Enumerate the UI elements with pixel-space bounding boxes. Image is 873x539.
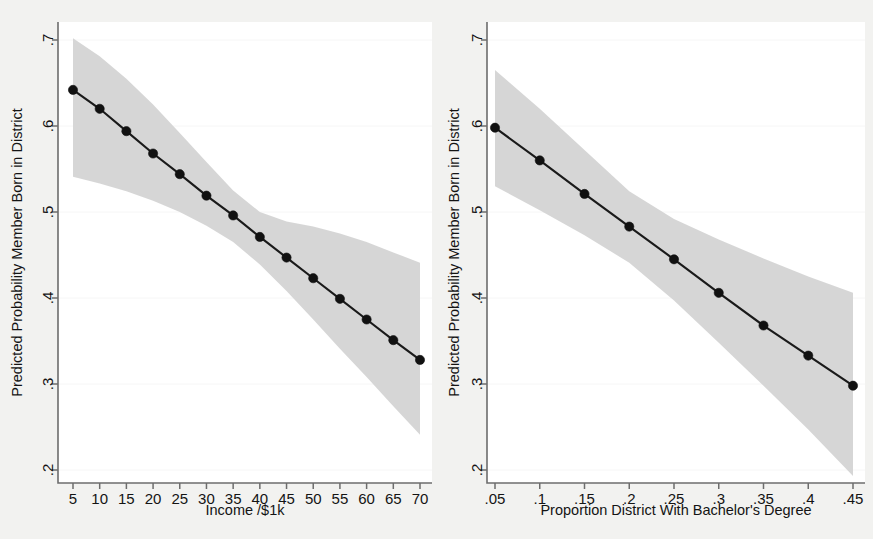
y-tick-label: .5 [468,206,485,219]
data-point-marker [490,123,499,132]
x-tick-label: 25 [171,490,188,507]
data-point-marker [535,156,544,165]
chart-panel-bachelors: .2.3.4.5.6.7.05.1.15.2.25.3.35.4.45Propo… [437,0,873,539]
data-point-marker [759,321,768,330]
data-point-marker [309,274,318,283]
y-tick-label: .2 [468,464,485,477]
x-axis-title: Income /$1k [206,502,286,518]
data-point-marker [335,294,344,303]
x-tick-label: 15 [118,490,135,507]
data-point-marker [714,288,723,297]
y-tick-label: .7 [39,34,56,47]
y-tick-label: .2 [39,464,56,477]
data-point-marker [202,191,211,200]
y-tick-label: .6 [468,120,485,133]
data-point-marker [669,255,678,264]
data-point-marker [68,85,77,94]
x-axis-title: Proportion District With Bachelor's Degr… [540,502,811,518]
y-tick-label: .5 [39,206,56,219]
y-axis-title: Predicted Probability Member Born in Dis… [9,108,25,397]
y-axis-title: Predicted Probability Member Born in Dis… [446,108,462,397]
x-tick-label: 70 [412,490,429,507]
data-point-marker [804,351,813,360]
x-tick-label: 5 [69,490,77,507]
data-point-marker [255,232,264,241]
x-tick-label: .05 [485,490,506,507]
x-tick-label: 65 [385,490,402,507]
data-point-marker [848,381,857,390]
data-point-marker [580,189,589,198]
data-point-marker [175,170,184,179]
y-tick-label: .4 [468,292,485,305]
bachelors-panel-svg: .2.3.4.5.6.7.05.1.15.2.25.3.35.4.45Propo… [437,0,873,539]
x-tick-label: 55 [332,490,349,507]
x-tick-label: 60 [358,490,375,507]
x-tick-label: 20 [145,490,162,507]
data-point-marker [282,253,291,262]
y-tick-label: .6 [39,120,56,133]
data-point-marker [95,104,104,113]
data-point-marker [148,149,157,158]
x-tick-label: 10 [91,490,108,507]
figure-two-panel-predicted-probability: .2.3.4.5.6.7510152025303540455055606570I… [0,0,873,539]
income-panel-svg: .2.3.4.5.6.7510152025303540455055606570I… [0,0,437,539]
y-tick-label: .3 [468,378,485,391]
data-point-marker [415,355,424,364]
x-tick-label: .45 [843,490,864,507]
data-point-marker [229,211,238,220]
data-point-marker [362,315,371,324]
y-tick-label: .3 [39,378,56,391]
data-point-marker [122,127,131,136]
data-point-marker [389,336,398,345]
y-tick-label: .4 [39,292,56,305]
data-point-marker [625,222,634,231]
y-tick-label: .7 [468,34,485,47]
x-tick-label: 50 [305,490,322,507]
chart-panel-income: .2.3.4.5.6.7510152025303540455055606570I… [0,0,437,539]
